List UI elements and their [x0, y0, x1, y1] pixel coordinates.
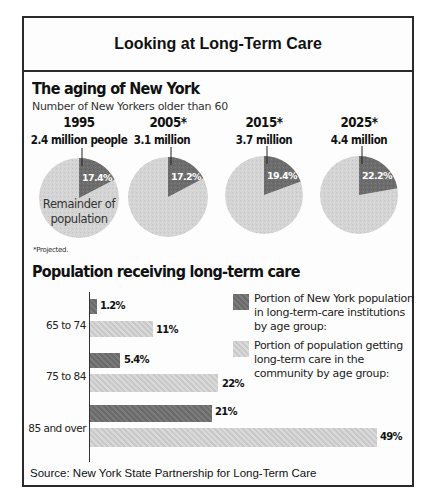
pie-2005: 17.2%: [128, 147, 208, 237]
care-section-title: Population receiving long-term care: [32, 262, 300, 281]
bar-community-85-over: [90, 428, 377, 447]
legend-swatch-community: [233, 341, 249, 357]
category-85-over: 85 and over: [16, 422, 86, 434]
value-institution-85-over: 21%: [215, 406, 237, 417]
remainder-label-line-1: Remainder of: [31, 197, 127, 212]
legend-swatch-institutions: [233, 294, 249, 310]
legend-community: Portion of population getting long-term …: [254, 339, 414, 381]
bar-institution-85-over: [90, 405, 212, 422]
remainder-label-line-2: population: [31, 212, 127, 227]
bar-institution-65-74: [90, 299, 97, 314]
legend-institutions: Portion of New York population in long-t…: [254, 292, 414, 334]
pie-share-label: 22.2%: [362, 170, 393, 181]
value-community-65-74: 11%: [156, 324, 178, 335]
value-institution-65-74: 1.2%: [100, 300, 125, 311]
pie-share-label: 17.4%: [82, 172, 113, 183]
value-community-75-84: 22%: [222, 378, 244, 389]
value-community-85-over: 49%: [380, 431, 402, 442]
pie-share-label: 19.4%: [267, 170, 298, 181]
value-institution-75-84: 5.4%: [124, 354, 149, 365]
projected-footnote: *Projected.: [33, 246, 68, 254]
remainder-label: Remainder of population: [31, 197, 127, 227]
pie-2015: 19.4%: [225, 146, 303, 234]
source-note: Source: New York State Partnership for L…: [30, 467, 316, 479]
bar-institution-75-84: [90, 353, 120, 368]
category-75-84: 75 to 84: [16, 370, 86, 382]
pie-share-label: 17.2%: [171, 171, 202, 182]
pie-2025: 22.2%: [320, 146, 398, 234]
bar-community-75-84: [90, 374, 218, 392]
bar-community-65-74: [90, 321, 153, 337]
category-65-74: 65 to 74: [16, 319, 86, 331]
